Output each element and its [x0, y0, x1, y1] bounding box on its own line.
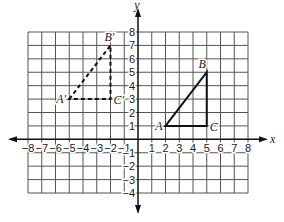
- vertex-label: B′: [105, 30, 115, 44]
- vertex-label: A′: [55, 92, 66, 106]
- axes: [8, 8, 268, 214]
- vertex-label: A: [154, 119, 163, 133]
- x-tick-label: 2: [162, 142, 168, 154]
- y-axis-label: y: [133, 0, 140, 12]
- y-tick-label: 4: [129, 80, 135, 92]
- x-tick-label: 3: [176, 142, 182, 154]
- y-tick-label: −1: [122, 147, 135, 159]
- y-tick-label: 2: [129, 107, 135, 119]
- x-tick-label: 7: [231, 142, 237, 154]
- vertex-labels: ABCA′B′C′: [55, 30, 218, 134]
- x-tick-label: 8: [245, 142, 251, 154]
- x-tick-label: 6: [217, 142, 223, 154]
- x-axis-label: x: [269, 132, 276, 146]
- x-tick-label: −6: [49, 142, 62, 154]
- vertex-label: C′: [114, 93, 125, 107]
- y-tick-label: 7: [129, 39, 135, 51]
- x-tick-label: −7: [35, 142, 48, 154]
- x-axis-left-arrow-icon: [8, 136, 17, 142]
- y-tick-label: 5: [129, 66, 135, 78]
- y-tick-label: −2: [122, 160, 135, 172]
- x-tick-label: −3: [90, 142, 103, 154]
- x-tick-label: −2: [104, 142, 117, 154]
- y-tick-label: 1: [129, 120, 135, 132]
- x-tick-label: −5: [63, 142, 76, 154]
- x-tick-label: 4: [190, 142, 196, 154]
- y-axis-down-arrow-icon: [135, 205, 141, 214]
- coordinate-plane: −8−7−6−5−4−3−2−11234567887654321−1−2−3−4…: [0, 0, 284, 222]
- x-tick-label: 5: [204, 142, 210, 154]
- x-axis-right-arrow-icon: [259, 136, 268, 142]
- y-tick-label: −3: [122, 174, 135, 186]
- y-tick-label: 8: [129, 26, 135, 38]
- x-tick-label: −8: [22, 142, 35, 154]
- vertex-label: B: [198, 57, 206, 71]
- x-tick-label: −4: [77, 142, 90, 154]
- y-tick-label: 3: [129, 93, 135, 105]
- y-tick-label: 6: [129, 53, 135, 65]
- coordinate-plane-diagram: −8−7−6−5−4−3−2−11234567887654321−1−2−3−4…: [0, 0, 284, 222]
- x-tick-label: 1: [149, 142, 155, 154]
- y-tick-label: −4: [122, 187, 135, 199]
- vertex-label: C: [210, 120, 219, 134]
